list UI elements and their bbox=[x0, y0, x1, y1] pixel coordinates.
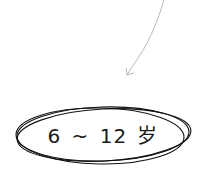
sketch-canvas bbox=[0, 0, 206, 182]
age-range-label: 6 ~ 12 岁 bbox=[0, 120, 206, 149]
curved-arrow-line bbox=[127, 0, 164, 75]
arrow-head-icon bbox=[126, 68, 134, 75]
